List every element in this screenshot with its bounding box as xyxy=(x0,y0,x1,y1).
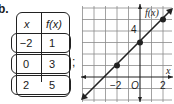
y-axis-down-arrow-icon xyxy=(138,97,142,102)
y-axis-label: f(x) xyxy=(145,7,160,19)
x-axis-left-arrow-icon xyxy=(81,75,86,79)
table-row: 0 3 xyxy=(11,54,71,74)
y-axis-up-arrow-icon xyxy=(138,4,142,9)
x-tick-label-2: 2 xyxy=(160,80,166,91)
separator: ; xyxy=(72,55,75,69)
table-cell-x: 0 xyxy=(15,58,37,70)
coordinate-graph: f(x) x 4 −2 2 O xyxy=(80,0,174,104)
x-axis-label: x xyxy=(165,65,171,76)
origin-label: O xyxy=(131,80,139,91)
table-row: −2 1 xyxy=(11,33,71,53)
point-0-3 xyxy=(137,40,143,46)
table-cell-fx: 1 xyxy=(41,37,63,49)
point-neg2-1 xyxy=(114,63,120,69)
x-tick-label-neg2: −2 xyxy=(110,80,122,91)
point-2-5 xyxy=(160,17,166,23)
table-row: 2 5 xyxy=(11,75,71,95)
table-cell-x: −2 xyxy=(15,37,37,49)
y-tick-label-4: 4 xyxy=(131,24,137,35)
table-header-fx: f(x) xyxy=(46,18,62,30)
table-cell-x: 2 xyxy=(15,79,37,91)
table-cell-fx: 3 xyxy=(41,58,63,70)
problem-label: b. xyxy=(0,2,9,16)
table-cell-fx: 5 xyxy=(41,79,63,91)
table-header-x: x xyxy=(24,18,30,30)
